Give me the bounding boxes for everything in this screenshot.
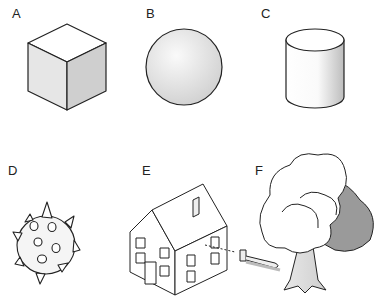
- tree-shape: [260, 154, 374, 293]
- cube-shape: [28, 24, 106, 110]
- sphere-shape: [146, 29, 222, 105]
- figure-drawing: [0, 0, 386, 298]
- cylinder-shape: [286, 29, 344, 108]
- spiky-ball-shape: [13, 202, 80, 284]
- house-shape: [130, 184, 280, 295]
